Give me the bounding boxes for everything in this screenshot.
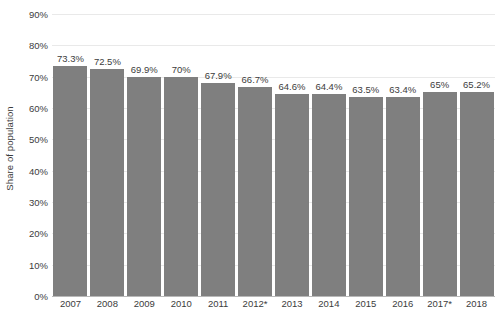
y-axis-tick-labels: 0%10%20%30%40%50%60%70%80%90% [0, 14, 48, 296]
bar[interactable] [164, 77, 198, 296]
bar[interactable] [460, 92, 494, 296]
bar-group[interactable]: 72.5% [90, 14, 124, 296]
y-axis-tick-label: 60% [4, 103, 48, 114]
bar-value-label: 65% [430, 79, 449, 90]
x-axis-tick-label: 2014 [318, 298, 339, 309]
bar-group[interactable]: 65.2% [460, 14, 494, 296]
x-axis-tick-label: 2012* [243, 298, 268, 309]
bar-value-label: 63.5% [352, 84, 379, 95]
gridline [52, 296, 495, 297]
bar-group[interactable]: 63.5% [349, 14, 383, 296]
bar[interactable] [349, 97, 383, 296]
y-axis-tick-label: 50% [4, 134, 48, 145]
bar-value-label: 65.2% [463, 79, 490, 90]
bar-value-label: 67.9% [205, 70, 232, 81]
bar-value-label: 73.3% [57, 53, 84, 64]
x-axis-tick-label: 2013 [281, 298, 302, 309]
y-axis-tick-label: 40% [4, 165, 48, 176]
x-axis-tick-label: 2007 [60, 298, 81, 309]
bar[interactable] [90, 69, 124, 296]
bar-value-label: 63.4% [389, 84, 416, 95]
bar-value-label: 72.5% [94, 56, 121, 67]
bar[interactable] [312, 94, 346, 296]
bar-group[interactable]: 63.4% [386, 14, 420, 296]
bar[interactable] [238, 87, 272, 296]
x-axis-tick-label: 2016 [392, 298, 413, 309]
bar-group[interactable]: 67.9% [201, 14, 235, 296]
bar[interactable] [423, 92, 457, 296]
bar-group[interactable]: 65% [423, 14, 457, 296]
y-axis-tick-label: 0% [4, 291, 48, 302]
bar[interactable] [201, 83, 235, 296]
bar-group[interactable]: 73.3% [53, 14, 87, 296]
x-axis-tick-label: 2010 [171, 298, 192, 309]
bar-value-label: 64.4% [315, 81, 342, 92]
y-axis-tick-label: 70% [4, 71, 48, 82]
bar[interactable] [53, 66, 87, 296]
y-axis-tick-label: 30% [4, 197, 48, 208]
bar-value-label: 66.7% [242, 74, 269, 85]
x-axis-tick-label: 2015 [355, 298, 376, 309]
x-axis-tick-labels: 200720082009201020112012*201320142015201… [52, 298, 495, 318]
bar[interactable] [127, 77, 161, 296]
bar-value-label: 64.6% [278, 81, 305, 92]
bar-group[interactable]: 64.6% [275, 14, 309, 296]
bar-value-label: 69.9% [131, 64, 158, 75]
bar-group[interactable]: 69.9% [127, 14, 161, 296]
bar-value-label: 70% [172, 64, 191, 75]
x-axis-tick-label: 2008 [97, 298, 118, 309]
bar-group[interactable]: 64.4% [312, 14, 346, 296]
x-axis-tick-label: 2018 [466, 298, 487, 309]
bar[interactable] [386, 97, 420, 296]
bar-group[interactable]: 66.7% [238, 14, 272, 296]
y-axis-tick-label: 80% [4, 40, 48, 51]
bar[interactable] [275, 94, 309, 296]
y-axis-tick-label: 10% [4, 259, 48, 270]
y-axis-tick-label: 20% [4, 228, 48, 239]
x-axis-tick-label: 2011 [208, 298, 228, 309]
bar-group[interactable]: 70% [164, 14, 198, 296]
bars-layer: 73.3%72.5%69.9%70%67.9%66.7%64.6%64.4%63… [52, 14, 495, 296]
bar-chart: Share of population 0%10%20%30%40%50%60%… [0, 0, 503, 323]
x-axis-tick-label: 2009 [134, 298, 155, 309]
x-axis-tick-label: 2017* [427, 298, 452, 309]
y-axis-tick-label: 90% [4, 9, 48, 20]
